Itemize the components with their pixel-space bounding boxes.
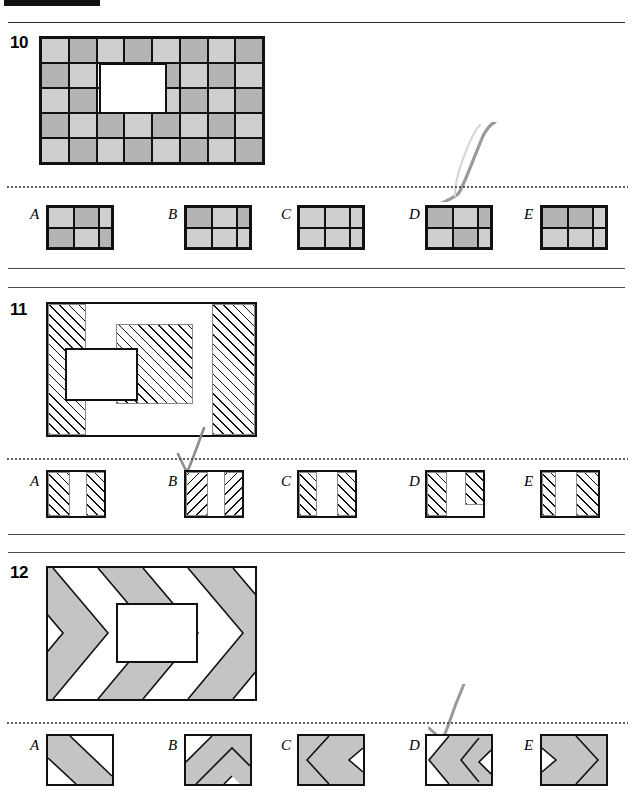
section-rule-11-bottom [8, 534, 625, 535]
q11-option-E[interactable] [540, 470, 600, 518]
page-header-bar [4, 0, 100, 6]
q10-cell-r3-c7 [235, 113, 263, 138]
q10-cell-r2-c0 [41, 88, 69, 113]
q10-optD-cell-r0-c2 [478, 207, 491, 228]
q12-centre-block [116, 603, 198, 663]
q10-optB-cell-r0-c2 [237, 207, 250, 228]
section-rule-12-top [8, 552, 625, 553]
q10-white-hole [99, 63, 167, 114]
q10-cell-r4-c0 [41, 138, 69, 163]
q12-option-E[interactable] [540, 734, 608, 786]
q10-optC-cell-r0-c0 [299, 207, 325, 228]
q10-optC-cell-r1-c2 [350, 228, 363, 249]
q10-optB-cell-r0-c1 [212, 207, 238, 228]
q10-cell-r0-c5 [180, 38, 208, 63]
question-number-11: 11 [10, 300, 27, 320]
q12-option-letter-E: E [524, 737, 533, 754]
q11-option-B[interactable] [184, 470, 244, 518]
q10-cell-r1-c1 [69, 63, 97, 88]
q10-optA-cell-r0-c0 [48, 207, 74, 228]
q12-option-letter-D: D [409, 737, 420, 754]
q10-cell-r2-c5 [180, 88, 208, 113]
q10-option-letter-A: A [30, 206, 39, 223]
pencil-mark-q10 [425, 122, 515, 202]
q10-cell-r0-c3 [124, 38, 152, 63]
q11-option-letter-B: B [168, 473, 177, 490]
q11a-right-band [86, 472, 106, 516]
q10-cell-r4-c5 [180, 138, 208, 163]
q10-cell-r3-c0 [41, 113, 69, 138]
q10-cell-r4-c3 [124, 138, 152, 163]
q11c-middle-gap [317, 472, 337, 516]
q10-optB-cell-r1-c1 [212, 228, 238, 249]
worksheet-page: 10 A B C D E 11 [0, 0, 633, 797]
q10-optD-cell-r1-c0 [427, 228, 453, 249]
q10-cell-r4-c6 [208, 138, 236, 163]
q10-cell-r3-c6 [208, 113, 236, 138]
q10-cell-r3-c2 [97, 113, 125, 138]
q10-optA-cell-r1-c0 [48, 228, 74, 249]
q12-option-C[interactable] [297, 734, 365, 786]
section-rule-10-bottom-a [8, 268, 625, 269]
q12-option-B[interactable] [184, 734, 252, 786]
q11-option-A[interactable] [46, 470, 106, 518]
q10-option-A[interactable] [46, 205, 114, 250]
q10-option-B[interactable] [184, 205, 252, 250]
q10-optD-cell-r0-c0 [427, 207, 453, 228]
q10-optB-cell-r1-c2 [237, 228, 250, 249]
q11-answer-separator [6, 458, 628, 460]
question-number-10: 10 [10, 33, 28, 53]
q12-option-D[interactable] [425, 734, 493, 786]
q10-cell-r1-c5 [180, 63, 208, 88]
q10-answer-separator [6, 186, 628, 188]
q10-optD-cell-r0-c1 [453, 207, 479, 228]
section-rule-top [8, 22, 625, 23]
q10-optC-cell-r1-c0 [299, 228, 325, 249]
q10-optE-cell-r0-c0 [542, 207, 568, 228]
q11a-middle-gap [70, 472, 86, 516]
q10-cell-r2-c1 [69, 88, 97, 113]
q11-option-C[interactable] [297, 470, 357, 518]
q11e-right-band [576, 472, 600, 516]
question-number-12: 12 [10, 563, 28, 583]
q11b-middle-gap [208, 472, 224, 516]
q11-white-block [65, 348, 138, 401]
q10-cell-r0-c4 [152, 38, 180, 63]
q11d-middle-gap [447, 472, 465, 516]
q11-option-letter-D: D [409, 473, 420, 490]
q11e-middle-gap [556, 472, 576, 516]
q10-cell-r1-c7 [235, 63, 263, 88]
section-rule-11-top [8, 287, 625, 288]
q10-cell-r3-c3 [124, 113, 152, 138]
q10-cell-r0-c6 [208, 38, 236, 63]
q10-optC-cell-r1-c1 [325, 228, 351, 249]
q11-right-band [212, 304, 255, 435]
q10-cell-r0-c2 [97, 38, 125, 63]
q10-option-letter-E: E [524, 206, 533, 223]
q10-option-C[interactable] [297, 205, 365, 250]
q10-cell-r0-c7 [235, 38, 263, 63]
q11-option-letter-A: A [30, 473, 39, 490]
q11d-right-band [465, 472, 485, 505]
q10-cell-r4-c4 [152, 138, 180, 163]
q10-option-letter-C: C [281, 206, 291, 223]
q12-option-A[interactable] [46, 734, 114, 786]
q10-optE-cell-r0-c1 [568, 207, 594, 228]
q10-optE-cell-r1-c2 [593, 228, 606, 249]
q10-cell-r4-c2 [97, 138, 125, 163]
q11b-right-band [224, 472, 244, 516]
q11d-left-band [427, 472, 447, 516]
q11-stimulus-figure [46, 302, 257, 437]
q11a-left-band [48, 472, 70, 516]
q10-optC-cell-r0-c2 [350, 207, 363, 228]
q10-option-E[interactable] [540, 205, 608, 250]
q11e-left-band [542, 472, 556, 516]
q10-optA-cell-r0-c1 [74, 207, 100, 228]
q11-option-D[interactable] [425, 470, 485, 518]
q10-cell-r4-c7 [235, 138, 263, 163]
q10-optB-cell-r1-c0 [186, 228, 212, 249]
q10-option-letter-B: B [168, 206, 177, 223]
q10-optE-cell-r1-c0 [542, 228, 568, 249]
q10-cell-r3-c4 [152, 113, 180, 138]
q10-option-D[interactable] [425, 205, 493, 250]
